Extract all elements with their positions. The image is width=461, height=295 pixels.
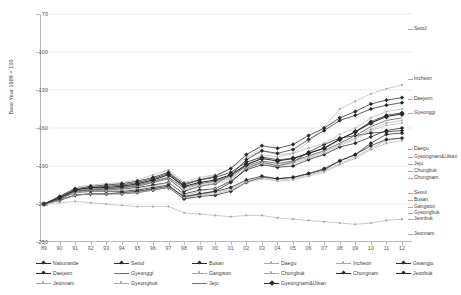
series-end-label: Daegu: [414, 146, 429, 151]
series-end-label: Incheon: [414, 76, 432, 81]
y-axis-tick-label: 70: [18, 11, 48, 17]
data-point: [291, 142, 295, 146]
data-point: [308, 157, 310, 159]
data-point: [385, 142, 387, 144]
legend-swatch-icon: [114, 280, 129, 286]
data-point: [308, 175, 310, 177]
end-label-leader-line: [408, 29, 413, 30]
legend-item[interactable]: Gangwon: [192, 270, 231, 276]
data-point: [370, 93, 372, 95]
series-jeonbuk: [42, 136, 404, 206]
legend-item[interactable]: Gyeongnam&Ulsan: [264, 280, 326, 286]
x-axis-tick-mark: [277, 242, 278, 245]
legend-item[interactable]: Gwangju: [396, 260, 433, 266]
legend-item[interactable]: Gyeongbuk: [114, 280, 158, 286]
data-point: [308, 219, 310, 221]
data-point: [385, 110, 387, 112]
legend-item[interactable]: Busan: [192, 260, 224, 266]
y-axis-tick-mark: [36, 204, 40, 205]
x-axis-tick-mark: [371, 242, 372, 245]
data-point: [384, 98, 388, 102]
legend-swatch-icon: [114, 270, 129, 276]
data-point: [339, 222, 341, 224]
x-axis-tick-mark: [293, 242, 294, 245]
data-point: [199, 213, 201, 215]
series-end-label: Seoul: [414, 26, 427, 31]
legend-item[interactable]: Daegu: [264, 260, 296, 266]
data-point: [214, 214, 216, 216]
data-point: [276, 165, 278, 167]
x-axis-tick-label: 93: [98, 245, 114, 251]
legend-item-label: Seoul: [131, 260, 144, 266]
data-point: [385, 88, 387, 90]
data-point: [339, 164, 341, 166]
data-point: [214, 193, 216, 195]
data-point: [230, 189, 232, 191]
legend-item[interactable]: Gyeonggi: [114, 270, 153, 276]
data-point: [323, 142, 325, 144]
y-axis-tick-label: 220: [18, 201, 48, 207]
data-point: [260, 149, 264, 153]
data-point: [292, 218, 294, 220]
legend-item[interactable]: Chungbuk: [264, 270, 305, 276]
end-label-leader-line: [408, 157, 413, 158]
x-axis-tick-label: 11: [378, 245, 394, 251]
x-axis-tick-mark: [262, 242, 263, 245]
data-point: [323, 171, 325, 173]
x-axis-tick-mark: [137, 242, 138, 245]
data-point: [401, 122, 403, 124]
x-axis-tick-label: 89: [36, 245, 52, 251]
data-point: [370, 117, 372, 119]
legend-item[interactable]: Incheon: [336, 260, 371, 266]
legend-item-label: Busan: [209, 260, 224, 266]
legend-item[interactable]: Jeju: [192, 280, 219, 286]
x-axis-tick-label: 94: [114, 245, 130, 251]
data-point: [152, 189, 154, 191]
data-point: [183, 189, 185, 191]
series-end-label: Busan: [414, 197, 428, 202]
series-jeonnam: [43, 200, 403, 225]
legend-item-label: Chungbuk: [281, 270, 305, 276]
data-point: [105, 203, 107, 205]
end-label-leader-line: [408, 149, 413, 150]
data-point: [384, 137, 388, 141]
end-label-leader-line: [408, 99, 413, 100]
legend-swatch-icon: [396, 260, 411, 266]
end-label-leader-line: [408, 193, 413, 194]
legend-item[interactable]: Jeonnam: [36, 280, 74, 286]
legend-item[interactable]: Seoul: [114, 260, 144, 266]
x-axis-tick-label: 92: [83, 245, 99, 251]
x-axis-tick-mark: [44, 242, 45, 245]
series-end-label: Gyeongbuk: [414, 210, 439, 215]
x-axis-tick-mark: [215, 242, 216, 245]
series-end-label: Chungbuk: [414, 168, 437, 173]
data-point: [323, 221, 325, 223]
y-axis-tick-mark: [36, 166, 40, 167]
end-label-leader-line: [408, 200, 413, 201]
legend-item[interactable]: Nationwide: [36, 260, 79, 266]
x-axis-tick-mark: [169, 242, 170, 245]
data-point: [167, 205, 169, 207]
data-point: [385, 124, 387, 126]
data-point: [136, 205, 138, 207]
legend-item-label: Incheon: [353, 260, 371, 266]
data-point: [276, 180, 278, 182]
legend-item[interactable]: Jeonbuk: [396, 270, 433, 276]
x-axis-tick-label: 10: [363, 245, 379, 251]
data-point: [230, 216, 232, 218]
legend-item[interactable]: Chungnam: [336, 270, 378, 276]
legend-swatch-icon: [264, 280, 279, 286]
legend-item-label: Nationwide: [53, 260, 79, 266]
legend-item-label: Gangwon: [209, 270, 231, 276]
data-point: [369, 135, 373, 139]
x-axis-tick-label: 12: [394, 245, 410, 251]
series-line: [44, 133, 402, 204]
legend-item-label: Jeju: [209, 280, 219, 286]
series-gangwon: [43, 137, 403, 205]
x-axis-tick-mark: [231, 242, 232, 245]
series-end-label: Jeju: [414, 161, 423, 166]
x-axis-tick-mark: [106, 242, 107, 245]
data-point: [308, 147, 310, 149]
legend-item[interactable]: Daejeon: [36, 270, 72, 276]
data-point: [152, 205, 154, 207]
